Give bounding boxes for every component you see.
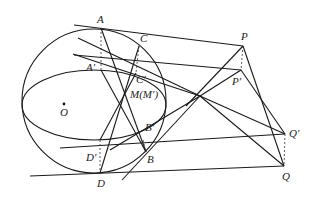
label-B-prime: B′ <box>145 121 155 133</box>
label-Q-prime: Q′ <box>289 127 300 139</box>
label-P: P <box>240 30 248 42</box>
label-O: O <box>60 106 68 118</box>
label-C: C <box>140 32 148 44</box>
label-M: M(M′) <box>129 88 158 101</box>
line-P-Q <box>243 46 284 166</box>
label-C-prime: C′ <box>136 73 146 85</box>
dash-Qprime-Q <box>284 134 285 166</box>
label-A: A <box>96 13 104 25</box>
label-D-prime: D′ <box>85 151 97 163</box>
line-tangent-Dprime-Qprime <box>60 134 285 148</box>
label-D: D <box>96 177 105 189</box>
line-X-Q <box>200 96 284 166</box>
geometry-diagram: A A′ C C′ M(M′) O B′ B D′ D P P′ Q′ Q <box>0 0 312 198</box>
center-point-O <box>63 103 66 106</box>
label-B: B <box>147 153 154 165</box>
line-B-tangent <box>122 96 200 180</box>
label-Q: Q <box>282 170 290 182</box>
line-tangent-D-Q <box>30 166 284 176</box>
label-A-prime: A′ <box>85 61 96 73</box>
label-P-prime: P′ <box>231 75 242 87</box>
chord-Cprime-Dprime <box>100 73 136 140</box>
line-tangent-A-P <box>74 25 243 46</box>
dash-P-Pprime <box>241 46 243 70</box>
